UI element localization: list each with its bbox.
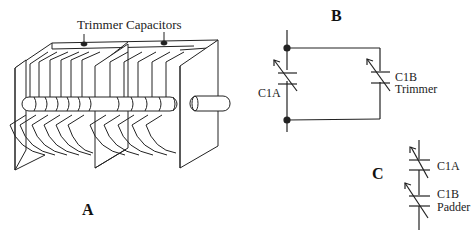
panel-c-label: C: [372, 166, 384, 182]
variable-capacitor-drawing: [0, 0, 474, 238]
panel-a-label: A: [82, 202, 94, 218]
padder-label-c: Padder: [437, 201, 470, 213]
c1a-label-c: C1A: [437, 160, 460, 172]
c1a-label-b: C1A: [258, 87, 281, 99]
trimmer-label-b: Trimmer: [395, 83, 437, 95]
panel-b-label: B: [331, 8, 342, 24]
trimmer-capacitors-callout: Trimmer Capacitors: [77, 18, 182, 31]
c1b-label-c: C1B: [437, 188, 459, 200]
